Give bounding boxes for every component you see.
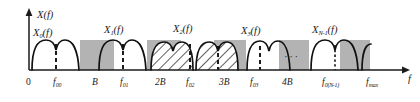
curve-label-xn-1: XN-1(f) xyxy=(312,25,338,36)
hatched-subbands xyxy=(151,42,238,70)
tick-label-4B: 4B xyxy=(282,78,293,88)
ellipsis: ··· xyxy=(284,50,300,62)
y-axis-arrow xyxy=(26,8,33,16)
tick-label-B: B xyxy=(92,78,98,88)
curve-label-x3: X3(f) xyxy=(241,26,260,37)
tick-label-f00: f00 xyxy=(53,78,61,89)
curve-label-x1: X1(f) xyxy=(104,25,123,36)
tick-label-2B: 2B xyxy=(155,78,166,88)
tick-label-f02: f02 xyxy=(186,78,194,89)
tick-label-fmax: fmax xyxy=(366,78,378,89)
diagram-canvas xyxy=(0,0,420,102)
curve-label-x2: X2(f) xyxy=(173,24,192,35)
tick-label-zero: 0 xyxy=(26,78,31,88)
tick-label-f01: f01 xyxy=(120,78,128,89)
tick-label-f0N-1: f0(N-1) xyxy=(322,78,339,89)
x-axis-label: f xyxy=(408,74,411,85)
spectrum-diagram: X(f) f X0(f) X1(f) X2(f) X3(f) XN-1(f) ·… xyxy=(0,0,420,102)
tick-label-f03: f03 xyxy=(250,78,258,89)
curve-label-x0: X0(f) xyxy=(33,28,52,39)
tick-label-3B: 3B xyxy=(219,78,230,88)
y-axis-label: X(f) xyxy=(37,10,53,21)
